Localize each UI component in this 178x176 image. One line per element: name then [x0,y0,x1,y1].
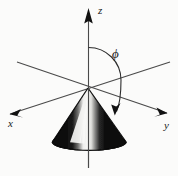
coordinate-system-figure: z x y ϕ [0,0,178,176]
axis-label-z: z [97,4,103,16]
diagram-canvas: z x y ϕ [0,0,178,176]
angle-arc-arrowhead [111,103,120,116]
axis-label-y: y [163,119,169,131]
axis-label-x: x [7,117,13,129]
angle-label-phi: ϕ [112,46,119,61]
